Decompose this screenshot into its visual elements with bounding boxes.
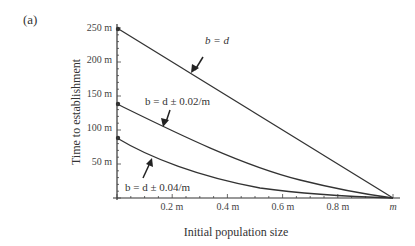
annotation-b-d-004: b = d ± 0.04/m — [125, 181, 191, 193]
y-tick-label: 200 m — [87, 54, 113, 65]
arrow-icon — [143, 165, 149, 178]
y-tick-label: 50 m — [92, 156, 113, 167]
y-tick-label: 150 m — [87, 88, 113, 99]
annotation-b-equals-d: b = d — [205, 34, 229, 46]
annotation-b-d-002: b = d ± 0.02/m — [145, 95, 211, 107]
curve-b-equals-d — [117, 28, 393, 198]
x-tick-label: 0.6 m — [272, 201, 295, 212]
point-marker — [116, 102, 120, 106]
x-axis-title: Initial population size — [184, 225, 289, 239]
y-tick-label: 100 m — [87, 122, 113, 133]
x-tick-label: m — [389, 201, 396, 212]
point-marker — [116, 136, 120, 140]
y-tick-label: 250 m — [87, 22, 113, 33]
chart: 50 m 100 m 150 m 200 m 250 m 0.2 m 0.4 m… — [0, 0, 415, 246]
y-axis-title: Time to establishment — [69, 58, 83, 165]
x-tick-label: 0.4 m — [217, 201, 240, 212]
x-tick-label: 0.2 m — [161, 201, 184, 212]
x-tick-label: 0.8 m — [327, 201, 350, 212]
point-marker — [116, 27, 120, 31]
